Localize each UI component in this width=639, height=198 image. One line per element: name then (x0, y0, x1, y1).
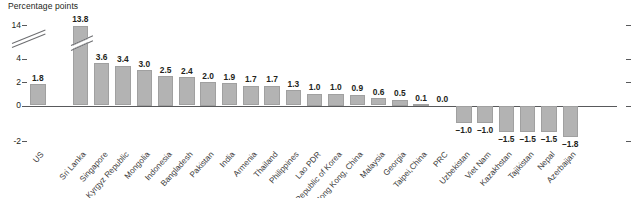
bar[interactable] (413, 104, 429, 106)
y-axis-tick-mark (22, 141, 27, 142)
bar[interactable] (392, 100, 408, 106)
bar[interactable] (243, 86, 259, 106)
bar-chart: Percentage points 1.813.83.63.43.02.52.4… (0, 0, 639, 198)
bar[interactable] (264, 86, 280, 106)
y-axis-tick-label: -2 (1, 136, 21, 146)
y-axis-tick-mark (22, 106, 27, 107)
bar[interactable] (286, 90, 302, 105)
bar[interactable] (456, 106, 472, 124)
bar-value-label: 0.0 (429, 94, 457, 104)
y-axis-tick-label: 0 (1, 100, 21, 110)
y-axis-tick-mark-right (626, 59, 631, 60)
bar[interactable] (115, 66, 131, 106)
bar[interactable] (158, 76, 174, 105)
bar[interactable] (328, 94, 344, 106)
bar[interactable] (520, 106, 536, 133)
bar[interactable] (350, 95, 366, 106)
bar[interactable] (222, 83, 238, 105)
bar[interactable] (499, 106, 515, 133)
bar-value-label: 13.8 (67, 14, 95, 24)
y-axis-tick-mark (22, 59, 27, 60)
y-axis-tick-mark (22, 25, 27, 26)
bar[interactable] (371, 98, 387, 105)
y-axis-tick-mark-right (626, 106, 631, 107)
bar[interactable] (307, 94, 323, 106)
y-axis-tick-mark-right (626, 82, 631, 83)
y-axis-tick-label: 4 (1, 53, 21, 63)
y-axis-tick-label: 14 (1, 20, 21, 30)
y-axis-tick-mark (22, 82, 27, 83)
y-axis-tick-label: 2 (1, 77, 21, 87)
bar[interactable] (477, 106, 493, 124)
bar[interactable] (179, 77, 195, 105)
bar[interactable] (563, 106, 579, 138)
y-axis-tick-mark-right (626, 141, 631, 142)
y-axis-tick-mark-right (626, 25, 631, 26)
bar-value-label: 1.8 (24, 73, 52, 83)
bar[interactable] (200, 82, 216, 106)
bar[interactable] (137, 70, 153, 105)
bar[interactable] (30, 84, 46, 105)
bar[interactable] (94, 63, 110, 105)
bar[interactable] (73, 26, 89, 106)
bar-value-label: –1.8 (557, 139, 585, 149)
bar[interactable] (541, 106, 557, 133)
